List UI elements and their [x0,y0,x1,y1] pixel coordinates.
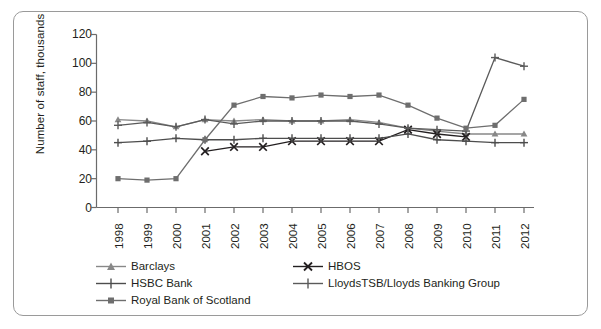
legend-marker-square-icon [96,294,126,307]
legend-item-lloyds[interactable]: LloydsTSB/Lloyds Banking Group [293,275,523,292]
legend-marker-plus-icon [96,277,126,290]
legend-row: Royal Bank of Scotland [96,292,526,309]
legend-row: Barclays HBOS [96,258,526,275]
legend-marker-cross-x-icon [293,260,323,273]
legend-item-barclays[interactable]: Barclays [96,258,293,275]
legend-item-royal-bank-of-scotland[interactable]: Royal Bank of Scotland [96,292,293,309]
legend-label: HSBC Bank [131,278,192,290]
legend-marker-plus-icon [293,277,323,290]
legend-label: Barclays [131,261,175,273]
legend-label: Royal Bank of Scotland [131,295,251,307]
chart-legend: Barclays HBOS HSBC Bank [96,258,526,309]
legend-row: HSBC Bank LloydsTSB/Lloyds Banking Group [96,275,526,292]
legend-marker-triangle-icon [96,260,126,273]
legend-item-hbos[interactable]: HBOS [293,258,523,275]
legend-label: HBOS [328,261,361,273]
legend-label: LloydsTSB/Lloyds Banking Group [328,278,500,290]
legend-item-hsbc-bank[interactable]: HSBC Bank [96,275,293,292]
chart-figure: Number of staff, thousands 120 100 80 60… [0,0,601,329]
